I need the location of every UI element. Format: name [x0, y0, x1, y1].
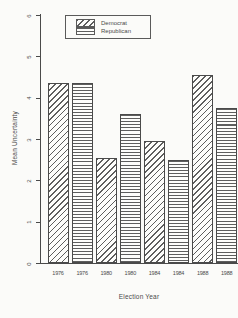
legend-label-democrat: Democrat	[101, 19, 127, 27]
legend-swatch-republican-hatch-icon	[76, 27, 95, 35]
bar-democrat-1976	[48, 83, 69, 263]
bar-democrat-1980	[96, 158, 117, 263]
x-tick-label-1: 1976	[69, 270, 95, 276]
y-tick-label-5: 5	[26, 55, 32, 58]
y-tick-mark-1	[36, 222, 40, 223]
y-tick-label-0: 0	[26, 262, 32, 265]
bar-democrat-1988	[192, 75, 213, 263]
x-tick-label-3: 1980	[117, 270, 143, 276]
x-tick-label-0: 1976	[45, 270, 71, 276]
bar-republican-1984	[168, 160, 189, 263]
y-tick-mark-6	[36, 15, 40, 16]
legend-box: Democrat Republican	[65, 15, 151, 39]
bar-republican-1988	[216, 108, 237, 263]
x-axis-line	[40, 263, 238, 264]
bar-republican-1980	[120, 114, 141, 263]
y-tick-label-3: 3	[26, 138, 32, 141]
y-tick-label-2: 2	[26, 179, 32, 182]
y-tick-mark-5	[36, 56, 40, 57]
y-axis-title: Mean Uncertainty	[11, 111, 18, 165]
x-tick-label-5: 1984	[166, 270, 192, 276]
y-tick-mark-2	[36, 180, 40, 181]
y-tick-mark-3	[36, 139, 40, 140]
x-tick-label-6: 1988	[190, 270, 216, 276]
x-tick-label-7: 1988	[214, 270, 238, 276]
bar-democrat-1984	[144, 141, 165, 263]
y-tick-label-4: 4	[26, 97, 32, 100]
legend-swatch-democrat-hatch-icon	[76, 19, 95, 27]
y-tick-mark-4	[36, 98, 40, 99]
y-tick-mark-0	[36, 263, 40, 264]
y-tick-label-6: 6	[26, 14, 32, 17]
bar-republican-1976	[72, 83, 93, 263]
x-tick-label-2: 1980	[93, 270, 119, 276]
y-axis-line	[40, 14, 41, 264]
legend-label-republican: Republican	[101, 27, 131, 35]
bar-chart-figure: Mean Uncertainty 0123456 197619761980198…	[0, 0, 238, 318]
x-tick-label-4: 1984	[141, 270, 167, 276]
y-tick-label-1: 1	[26, 220, 32, 223]
x-axis-title: Election Year	[119, 293, 160, 300]
